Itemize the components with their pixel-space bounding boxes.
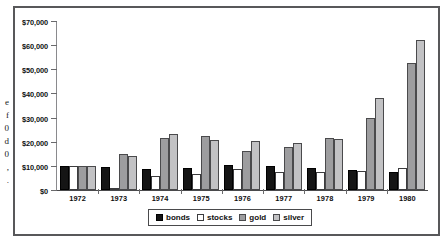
y-axis-tick-label: $0: [40, 187, 48, 196]
bar-silver-1980: [416, 40, 425, 190]
bar-bonds-1975: [183, 168, 192, 190]
y-axis-tick-label: $70,000: [22, 18, 48, 27]
x-axis-label-1979: 1979: [346, 194, 387, 203]
x-axis-label-1978: 1978: [304, 194, 345, 203]
clipped-margin-text: ef0d0,.: [0, 96, 10, 236]
bar-silver-1973: [128, 156, 137, 190]
frame-bottom-rule: [13, 234, 440, 236]
legend-swatch-silver-icon: [273, 214, 280, 221]
bar-silver-1977: [293, 143, 302, 190]
bar-bonds-1976: [224, 165, 233, 190]
bar-group: [57, 22, 98, 190]
legend-item-silver: silver: [273, 213, 304, 222]
x-axis-label-1972: 1972: [57, 194, 98, 203]
x-axis-label-1976: 1976: [222, 194, 263, 203]
bar-group: [304, 22, 345, 190]
bar-stocks-1977: [275, 172, 284, 190]
chart-legend: bondsstocksgoldsilver: [148, 209, 312, 226]
y-axis-tick: [51, 190, 57, 191]
bar-gold-1974: [160, 138, 169, 190]
legend-label-gold: gold: [249, 213, 266, 222]
clipped-margin-line: .: [0, 174, 9, 187]
bar-gold-1976: [242, 151, 251, 190]
x-axis-labels: 197219731974197519761977197819791980: [57, 194, 428, 203]
plot-area: $0$10,000$20,000$30,000$40,000$50,000$60…: [56, 22, 428, 191]
x-axis-label-1975: 1975: [181, 194, 222, 203]
y-axis-tick-label: $10,000: [22, 162, 48, 171]
bar-group: [139, 22, 180, 190]
bar-silver-1975: [210, 140, 219, 190]
bar-bonds-1977: [266, 166, 275, 190]
bar-group: [181, 22, 222, 190]
bar-gold-1979: [366, 118, 375, 190]
bar-stocks-1972: [69, 166, 78, 190]
bar-silver-1978: [334, 139, 343, 190]
bar-silver-1979: [375, 98, 384, 190]
bar-groups: [57, 22, 428, 190]
y-axis-tick-label: $60,000: [22, 42, 48, 51]
legend-label-bonds: bonds: [166, 213, 190, 222]
x-axis-label-1977: 1977: [263, 194, 304, 203]
legend-label-silver: silver: [283, 213, 304, 222]
bar-bonds-1978: [307, 168, 316, 190]
legend-swatch-gold-icon: [239, 214, 246, 221]
bar-bonds-1979: [348, 170, 357, 190]
bar-gold-1977: [284, 147, 293, 190]
x-axis-label-1980: 1980: [387, 194, 428, 203]
legend-item-stocks: stocks: [197, 213, 232, 222]
chart-page: ef0d0,. $0$10,000$20,000$30,000$40,000$5…: [0, 0, 442, 238]
clipped-margin-line: e: [0, 96, 9, 109]
legend-swatch-bonds-icon: [156, 214, 163, 221]
bar-gold-1972: [78, 166, 87, 190]
bar-group: [98, 22, 139, 190]
bar-group: [222, 22, 263, 190]
x-axis-line: [56, 190, 428, 191]
bar-silver-1972: [87, 166, 96, 190]
clipped-margin-line: 0: [0, 122, 9, 135]
bar-gold-1973: [119, 154, 128, 190]
bar-gold-1978: [325, 138, 334, 190]
y-axis-tick-label: $50,000: [22, 66, 48, 75]
bar-stocks-1980: [398, 168, 407, 190]
x-axis-label-1974: 1974: [139, 194, 180, 203]
y-axis-tick-label: $40,000: [22, 90, 48, 99]
bar-group: [263, 22, 304, 190]
clipped-margin-line: f: [0, 109, 9, 122]
bar-stocks-1976: [233, 169, 242, 190]
clipped-margin-line: ,: [0, 161, 9, 174]
bar-group: [346, 22, 387, 190]
bar-group: [387, 22, 428, 190]
bar-bonds-1974: [142, 169, 151, 190]
legend-item-bonds: bonds: [156, 213, 190, 222]
bar-gold-1975: [201, 136, 210, 190]
x-axis-label-1973: 1973: [98, 194, 139, 203]
bar-stocks-1974: [151, 176, 160, 190]
bar-bonds-1973: [101, 167, 110, 190]
bar-gold-1980: [407, 63, 416, 190]
bar-stocks-1979: [357, 171, 366, 190]
bar-stocks-1978: [316, 172, 325, 190]
legend-item-gold: gold: [239, 213, 266, 222]
bar-silver-1974: [169, 134, 178, 190]
bar-bonds-1980: [389, 172, 398, 190]
y-axis-tick-label: $30,000: [22, 114, 48, 123]
bar-stocks-1973: [110, 188, 119, 190]
y-axis-tick-label: $20,000: [22, 138, 48, 147]
bar-bonds-1972: [60, 166, 69, 190]
legend-label-stocks: stocks: [207, 213, 232, 222]
legend-swatch-stocks-icon: [197, 214, 204, 221]
frame-right-rule: [438, 8, 440, 236]
bar-silver-1976: [251, 141, 260, 190]
clipped-margin-line: d: [0, 135, 9, 148]
clipped-margin-line: 0: [0, 148, 9, 161]
bar-stocks-1975: [192, 174, 201, 190]
